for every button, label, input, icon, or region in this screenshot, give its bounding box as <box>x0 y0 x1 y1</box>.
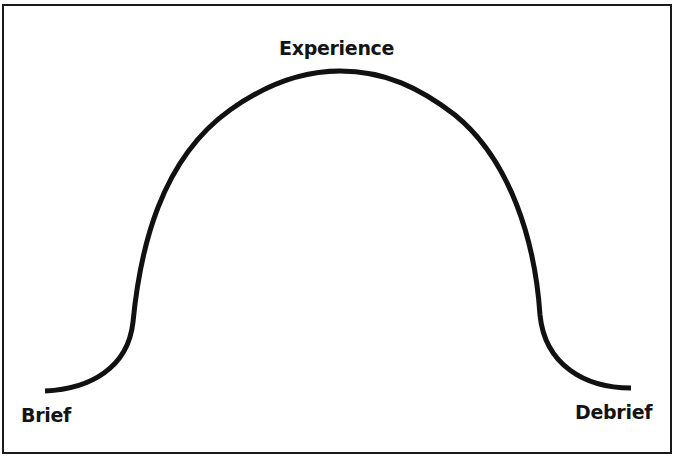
brief-label: Brief <box>21 404 71 426</box>
bell-curve <box>0 0 674 456</box>
experience-label: Experience <box>279 37 394 59</box>
experience-curve <box>45 71 631 391</box>
debrief-label: Debrief <box>575 401 652 423</box>
